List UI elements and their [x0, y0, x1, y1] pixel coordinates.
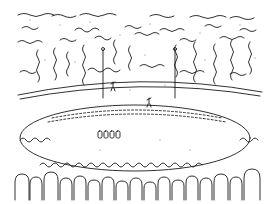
stadium-illustration	[0, 0, 276, 204]
mid-crowd-ring	[20, 138, 258, 167]
field-oval	[20, 105, 250, 171]
stands-wavy-row-1	[22, 25, 256, 33]
stipple-texture	[30, 20, 256, 151]
player-figure-left	[111, 82, 115, 91]
stands-top-edge	[18, 14, 254, 20]
stands-wavy-row-2	[18, 33, 244, 44]
stands-vertical-strokes	[37, 40, 252, 85]
foreground-crowd	[15, 169, 260, 200]
stadium-drawing: Black-and-white pen line drawing of a st…	[0, 0, 276, 204]
bench-figures	[98, 131, 120, 138]
